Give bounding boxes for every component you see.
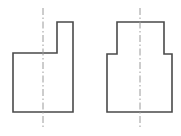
drawing-svg [0, 0, 181, 136]
technical-drawing-canvas [0, 0, 181, 136]
